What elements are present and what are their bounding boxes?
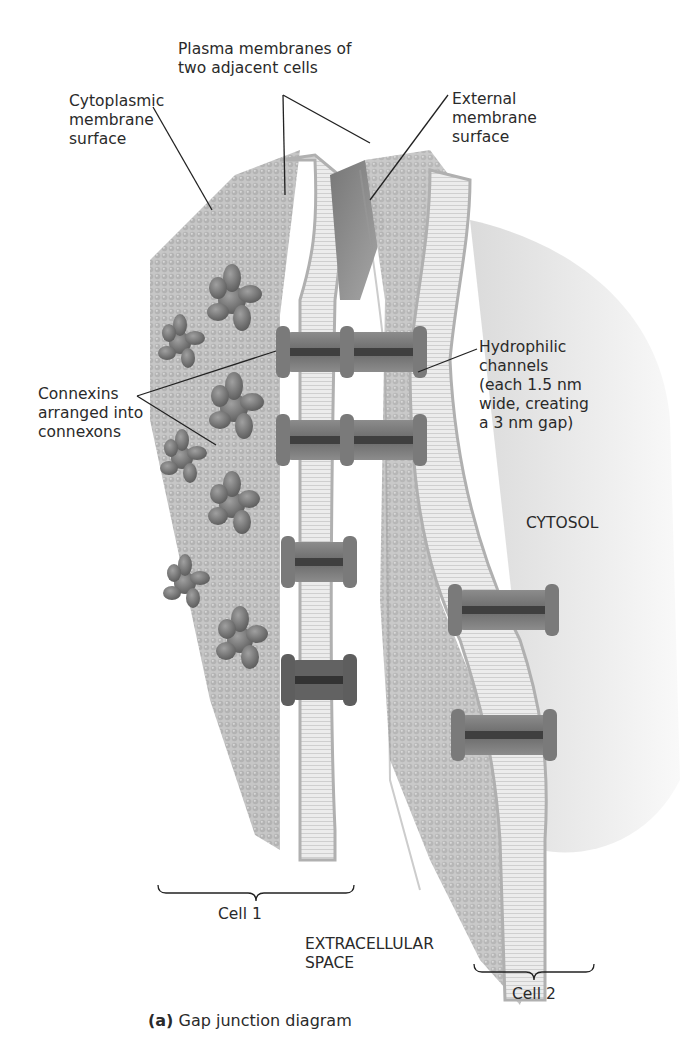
label-plasma-membranes: Plasma membranes of two adjacent cells: [178, 40, 352, 78]
caption-text: Gap junction diagram: [179, 1011, 352, 1030]
cell1-bilayer: [280, 155, 345, 860]
label-cell1: Cell 1: [218, 905, 262, 924]
label-cell2: Cell 2: [512, 985, 556, 1004]
label-cytosol: CYTOSOL: [526, 514, 598, 533]
figure-caption: (a) Gap junction diagram: [148, 1011, 352, 1030]
cell1-brace: [158, 885, 354, 901]
label-external-surface: External membrane surface: [452, 90, 537, 147]
label-extracellular-space: EXTRACELLULAR SPACE: [305, 935, 434, 973]
label-connexins: Connexins arranged into connexons: [38, 385, 143, 442]
label-hydrophilic-channels: Hydrophilic channels (each 1.5 nm wide, …: [479, 338, 589, 433]
label-cytoplasmic-surface: Cytoplasmic membrane surface: [69, 92, 164, 149]
caption-prefix: (a): [148, 1011, 173, 1030]
